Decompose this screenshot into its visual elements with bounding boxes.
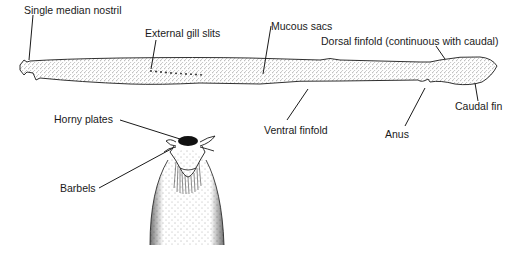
label-mucous-sacs: Mucous sacs	[271, 20, 332, 32]
horny-plates-shape	[178, 136, 198, 146]
label-ventral-finfold: Ventral finfold	[264, 124, 328, 136]
hagfish-figure: Single median nostril External gill slit…	[0, 0, 515, 256]
label-external-gill-slits: External gill slits	[145, 27, 220, 39]
label-dorsal-finfold: Dorsal finfold (continuous with caudal)	[321, 35, 498, 47]
label-caudal-fin: Caudal fin	[455, 100, 502, 112]
label-barbels: Barbels	[60, 182, 96, 194]
label-horny-plates: Horny plates	[54, 113, 113, 125]
label-anus: Anus	[385, 128, 409, 140]
lateral-body	[20, 57, 497, 85]
label-single-median-nostril: Single median nostril	[24, 4, 121, 16]
body-outline	[20, 57, 497, 85]
ventral-head	[99, 120, 224, 245]
